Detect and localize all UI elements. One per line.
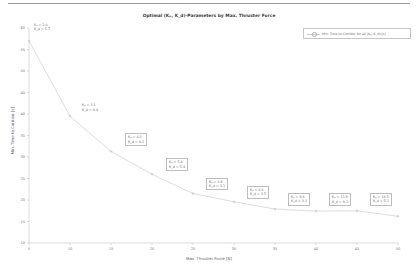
y-tick-label: 35 <box>13 134 25 138</box>
point-annotation: Kₚ = 9.4K_d = 3.3 <box>288 193 310 206</box>
annotation-kd-value: K_d = 3.1 <box>209 184 225 188</box>
y-tick-label: 50 <box>13 69 25 73</box>
y-tick-label: 45 <box>13 91 25 95</box>
x-tick-label: 25 <box>186 247 200 251</box>
axes-group <box>27 28 398 245</box>
x-axis-label: Max. Thruster Force [N] <box>0 256 418 261</box>
y-tick-label: 15 <box>13 220 25 224</box>
legend-line-marker-icon <box>307 32 320 36</box>
chart-plot-canvas <box>0 0 418 271</box>
x-tick-label: 35 <box>268 247 282 251</box>
y-tick-label: 10 <box>13 241 25 245</box>
chart-figure: Optimal (Kₚ, K_d)-Parameters by Max. Thr… <box>0 0 418 271</box>
annotation-kd-value: K_d = 5.1 <box>373 199 389 203</box>
annotation-kd-value: K_d = 9.2 <box>332 200 348 204</box>
y-tick-label: 40 <box>13 112 25 116</box>
x-tick-label: 15 <box>104 247 118 251</box>
point-annotation: Kₚ = 6.6K_d = 3.5 <box>247 186 269 199</box>
annotation-kd-value: K_d = 4.4 <box>82 108 98 112</box>
y-axis-label: Min. Time to Corridor [s] <box>10 81 15 181</box>
y-tick-label: 30 <box>13 155 25 159</box>
annotation-kp-value: Kₚ = 3.1 <box>82 103 98 107</box>
y-tick-label: 25 <box>13 177 25 181</box>
x-tick-label: 50 <box>391 247 405 251</box>
annotation-kp-value: Kₚ = 13.8 <box>332 195 348 199</box>
annotation-kd-value: K_d = 5.7 <box>34 27 50 31</box>
y-tick-label: 20 <box>13 198 25 202</box>
annotation-kp-value: Kₚ = 5.4 <box>169 160 185 164</box>
x-tick-label: 5 <box>22 247 36 251</box>
point-annotation: Kₚ = 5.4K_d = 5.4 <box>166 158 188 171</box>
point-annotation: Kₚ = 4.3K_d = 4.2 <box>125 133 147 146</box>
chart-legend[interactable]: Min. Time to Corridor for all (Kₚ, K_d)-… <box>303 28 411 39</box>
x-tick-label: 10 <box>63 247 77 251</box>
x-tick-label: 30 <box>227 247 241 251</box>
y-tick-label: 55 <box>13 48 25 52</box>
y-tick-label: 60 <box>13 26 25 30</box>
point-annotation: Kₚ = 6.8K_d = 3.1 <box>206 178 228 191</box>
point-annotation: Kₚ = 3.1K_d = 4.4 <box>80 102 100 113</box>
legend-entry-label: Min. Time to Corridor for all (Kₚ, K_d)-… <box>322 32 386 36</box>
point-annotation: Kₚ = 13.8K_d = 9.2 <box>329 193 351 206</box>
point-annotation: Kₚ = 2.0K_d = 5.7 <box>32 22 52 33</box>
x-tick-label: 45 <box>350 247 364 251</box>
annotation-kd-value: K_d = 5.4 <box>169 165 185 169</box>
data-series-group <box>28 40 399 217</box>
point-annotation: Kₚ = 14.5K_d = 5.1 <box>370 193 392 206</box>
annotation-kd-value: K_d = 3.5 <box>250 192 266 196</box>
annotation-kd-value: K_d = 4.2 <box>128 140 144 144</box>
x-tick-label: 40 <box>309 247 323 251</box>
annotation-kd-value: K_d = 3.3 <box>291 199 307 203</box>
x-tick-label: 20 <box>145 247 159 251</box>
